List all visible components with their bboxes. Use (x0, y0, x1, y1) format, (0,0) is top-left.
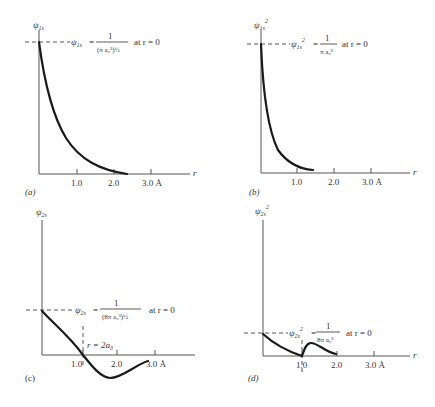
svg-text:at r = 0: at r = 0 (342, 39, 368, 49)
psi-1s-curve (39, 42, 127, 174)
svg-text:at r = 0: at r = 0 (134, 37, 160, 47)
svg-text:1: 1 (325, 33, 330, 43)
svg-text:ψ1s: ψ1s (71, 37, 83, 48)
panel-d: ψ2s2 r 1.0 2.0 3.0 Å (d) ψ2s2 = 1 8π a₀³… (244, 204, 417, 383)
panel-label: (d) (248, 373, 259, 383)
annotation: ψ2s2 = 1 8π a₀³ at r = 0 (289, 321, 372, 344)
panel-label: (a) (25, 187, 36, 197)
panel-a: ψ1s r 1.0 2.0 3.0 Å (a) ψ1s = 1 (π a₀³)½… (25, 20, 197, 197)
svg-text:1: 1 (108, 31, 113, 41)
x-axis-label: r (193, 168, 197, 178)
node-label: r = 2a₀ (87, 340, 113, 350)
psi-1s-squared-curve (261, 44, 313, 170)
y-axis-label: ψ2s2 (255, 204, 269, 217)
y-axis-label: ψ2s (36, 207, 48, 218)
tick-label: 3.0 Å (146, 359, 167, 369)
tick-label: 1.0 (71, 359, 83, 369)
tick-label: 1.0 (296, 360, 308, 370)
panel-label: (c) (25, 373, 35, 383)
svg-text:=: = (93, 305, 98, 315)
svg-text:=: = (313, 39, 318, 49)
svg-text:=: = (311, 328, 316, 338)
tick-label: 3.0 Å (142, 178, 163, 188)
panel-b: ψ1s2 r 1.0 2.0 3.0 Å (b) ψ1s2 = 1 π a₀³ … (247, 18, 417, 197)
annotation: ψ1s = 1 (π a₀³)½ at r = 0 (71, 31, 160, 54)
svg-text:(8π a₀³)½: (8π a₀³)½ (102, 313, 128, 321)
x-axis-label: r (413, 167, 417, 177)
tick-label: 2.0 (108, 178, 120, 188)
svg-text:ψ2s: ψ2s (75, 305, 87, 316)
panel-c: ψ2s 1.0 2.0 3.0 Å (c) r = 2a₀ ψ2s = 1 (8… (25, 207, 195, 383)
y-axis-label: ψ1s (33, 20, 45, 31)
svg-text:(π a₀³)½: (π a₀³)½ (97, 46, 120, 54)
tick-label: 2.0 (111, 359, 123, 369)
svg-text:=: = (89, 37, 94, 47)
tick-label: 1.0 (71, 178, 83, 188)
svg-text:8π a₀³: 8π a₀³ (317, 336, 333, 344)
x-axis-label: r (413, 350, 417, 360)
tick-label: 3.0 Å (365, 360, 386, 370)
y-axis-label: ψ1s2 (254, 18, 268, 31)
annotation: ψ1s2 = 1 π a₀³ at r = 0 (291, 33, 368, 56)
svg-text:at r = 0: at r = 0 (346, 328, 372, 338)
svg-text:at r = 0: at r = 0 (149, 305, 175, 315)
tick-label: 2.0 (328, 177, 340, 187)
tick-label: 3.0 Å (362, 177, 383, 187)
svg-text:ψ1s2: ψ1s2 (291, 37, 305, 50)
svg-text:1: 1 (326, 321, 331, 331)
tick-label: 1.0 (291, 177, 303, 187)
svg-text:π a₀³: π a₀³ (320, 48, 333, 56)
svg-text:1: 1 (114, 298, 119, 308)
panel-label: (b) (249, 187, 260, 197)
svg-text:ψ2s2: ψ2s2 (289, 326, 303, 339)
annotation: ψ2s = 1 (8π a₀³)½ at r = 0 (75, 298, 175, 321)
hydrogen-wavefunction-figure: ψ1s r 1.0 2.0 3.0 Å (a) ψ1s = 1 (π a₀³)½… (0, 0, 435, 407)
tick-label: 2.0 (331, 360, 343, 370)
